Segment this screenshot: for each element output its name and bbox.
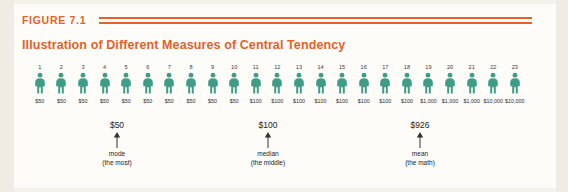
annotation-median-name: median	[213, 149, 323, 158]
person-index: 13	[296, 64, 302, 72]
person-cell: 15$100	[331, 64, 353, 122]
annotation-mode-sub: (the most)	[62, 158, 172, 167]
person-value: $100	[250, 97, 262, 105]
person-index: 3	[81, 64, 84, 72]
person-index: 12	[274, 64, 280, 72]
person-value: $100	[379, 97, 391, 105]
person-cell: 4$50	[94, 64, 116, 122]
figure-label: FIGURE 7.1	[22, 14, 86, 26]
person-cell: 20$1,000	[439, 64, 461, 122]
person-index: 2	[60, 64, 63, 72]
person-index: 9	[211, 64, 214, 72]
person-cell: 2$50	[51, 64, 73, 122]
person-index: 4	[103, 64, 106, 72]
person-index: 1	[38, 64, 41, 72]
person-cell: 23$10,000	[504, 64, 526, 122]
header-rule-bottom	[99, 22, 532, 24]
person-cell: 21$1,000	[461, 64, 483, 122]
person-icon	[249, 72, 263, 94]
annotation-mode: $50 mode (the most)	[62, 120, 172, 167]
annotation-mean-sub: (the math)	[365, 158, 475, 167]
person-icon	[54, 72, 68, 94]
person-value: $50	[165, 97, 174, 105]
person-cell: 11$100	[245, 64, 267, 122]
figure-header: FIGURE 7.1	[22, 14, 532, 28]
arrow-up-icon	[62, 131, 172, 149]
annotation-mode-name: mode	[62, 149, 172, 158]
person-value: $10,000	[484, 97, 504, 105]
person-index: 15	[339, 64, 345, 72]
annotation-median-value: $100	[213, 120, 323, 131]
person-cell: 12$100	[267, 64, 289, 122]
person-index: 18	[404, 64, 410, 72]
people-row: 1$502$503$504$505$506$507$508$509$5010$5…	[29, 64, 541, 122]
person-cell: 1$50	[29, 64, 51, 122]
person-cell: 19$1,000	[418, 64, 440, 122]
annotation-median-sub: (the middle)	[213, 158, 323, 167]
person-value: $50	[35, 97, 44, 105]
person-icon	[98, 72, 112, 94]
arrow-up-icon	[365, 131, 475, 149]
person-value: $100	[358, 97, 370, 105]
person-value: $100	[271, 97, 283, 105]
arrow-up-icon	[213, 131, 323, 149]
person-index: 8	[189, 64, 192, 72]
person-icon	[141, 72, 155, 94]
person-icon	[508, 72, 522, 94]
person-icon	[378, 72, 392, 94]
person-cell: 18$100	[396, 64, 418, 122]
page-margin-right	[556, 0, 568, 192]
person-icon	[421, 72, 435, 94]
person-value: $1,000	[420, 97, 437, 105]
person-icon	[227, 72, 241, 94]
person-index: 19	[425, 64, 431, 72]
person-icon	[33, 72, 47, 94]
person-index: 23	[512, 64, 518, 72]
person-cell: 22$10,000	[482, 64, 504, 122]
annotation-mean-value: $926	[365, 120, 475, 131]
person-value: $50	[78, 97, 87, 105]
person-index: 5	[125, 64, 128, 72]
person-index: 17	[382, 64, 388, 72]
annotation-median: $100 median (the middle)	[213, 120, 323, 167]
person-value: $10,000	[505, 97, 525, 105]
person-cell: 17$100	[375, 64, 397, 122]
person-index: 22	[490, 64, 496, 72]
header-rules	[99, 17, 532, 25]
person-value: $50	[208, 97, 217, 105]
figure-container: FIGURE 7.1 Illustration of Different Mea…	[0, 0, 568, 192]
person-cell: 16$100	[353, 64, 375, 122]
person-value: $50	[143, 97, 152, 105]
person-value: $1,000	[442, 97, 459, 105]
page-margin-left	[0, 0, 14, 192]
person-icon	[314, 72, 328, 94]
person-index: 14	[317, 64, 323, 72]
person-icon	[206, 72, 220, 94]
person-cell: 9$50	[202, 64, 224, 122]
person-cell: 7$50	[159, 64, 181, 122]
annotation-mean-name: mean	[365, 149, 475, 158]
person-cell: 14$100	[310, 64, 332, 122]
person-icon	[119, 72, 133, 94]
annotation-mean: $926 mean (the math)	[365, 120, 475, 167]
annotation-mode-value: $50	[62, 120, 172, 131]
person-value: $50	[122, 97, 131, 105]
person-value: $100	[336, 97, 348, 105]
person-value: $100	[315, 97, 327, 105]
person-cell: 13$100	[288, 64, 310, 122]
person-index: 20	[447, 64, 453, 72]
person-value: $100	[293, 97, 305, 105]
person-index: 6	[146, 64, 149, 72]
figure-title: Illustration of Different Measures of Ce…	[22, 38, 345, 52]
header-rule-top	[99, 17, 532, 19]
person-icon	[270, 72, 284, 94]
person-icon	[357, 72, 371, 94]
person-icon	[335, 72, 349, 94]
person-value: $1,000	[463, 97, 480, 105]
person-cell: 10$50	[223, 64, 245, 122]
person-icon	[443, 72, 457, 94]
person-icon	[292, 72, 306, 94]
person-icon	[400, 72, 414, 94]
person-value: $50	[57, 97, 66, 105]
person-index: 21	[469, 64, 475, 72]
